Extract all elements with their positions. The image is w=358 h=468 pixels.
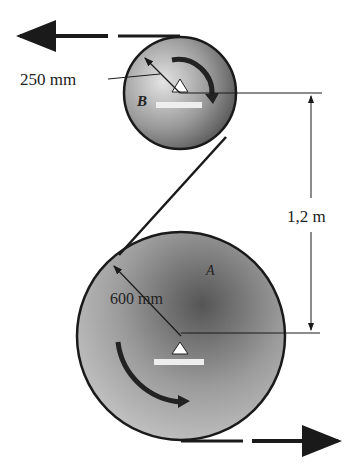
pulley-b-label: B (136, 93, 147, 109)
pulley-a-label: A (205, 263, 215, 278)
radius-label-b: 250 mm (20, 70, 76, 89)
center-distance-label: 1,2 m (287, 207, 326, 226)
base-b (156, 102, 202, 108)
radius-label-a: 600 mm (110, 290, 163, 307)
base-a (154, 359, 204, 365)
pulley-diagram: 250 mm B 1,2 m 600 mm A (0, 0, 358, 468)
